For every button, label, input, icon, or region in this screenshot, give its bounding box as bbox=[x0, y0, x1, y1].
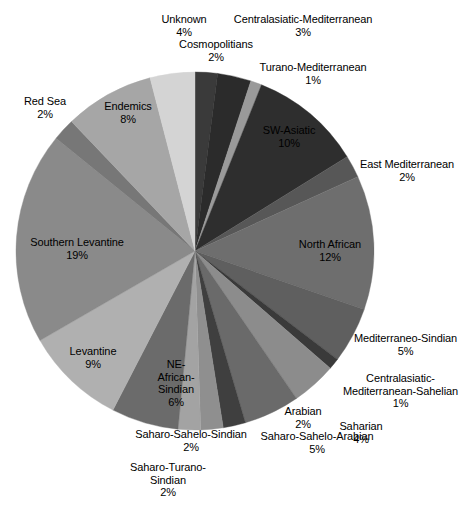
pie-label-saharo-turano-sindian: Saharo-Turano- Sindian2% bbox=[119, 461, 217, 499]
pie-label-name: Centralasiatic- Mediterranean-Sahelian bbox=[331, 372, 470, 397]
pie-label-north-african: North African12% bbox=[284, 238, 376, 263]
pie-label-name: East Mediterranean bbox=[344, 158, 470, 171]
pie-label-value: 2% bbox=[120, 441, 262, 454]
pie-label-name: Mediterraneo-Sindian bbox=[341, 332, 470, 345]
pie-label-mediterraneo-sindian: Mediterraneo-Sindian5% bbox=[341, 332, 470, 357]
pie-label-centralasiatic-mediterranean-sahelian: Centralasiatic- Mediterranean-Sahelian1% bbox=[331, 372, 470, 410]
pie-label-value: 2% bbox=[119, 486, 217, 499]
pie-label-value: 2% bbox=[14, 108, 76, 121]
pie-label-saharo-sahelo-arabian: Saharo-Sahelo-Arabian5% bbox=[244, 430, 390, 455]
pie-label-endemics: Endemics8% bbox=[92, 100, 164, 125]
pie-label-value: 1% bbox=[241, 74, 385, 87]
pie-label-name: Endemics bbox=[92, 100, 164, 113]
pie-label-name: Levantine bbox=[57, 345, 129, 358]
pie-label-name: Arabian bbox=[272, 405, 334, 418]
pie-label-name: Centralasiatic-Mediterranean bbox=[210, 13, 396, 26]
pie-label-turano-mediterranean: Turano-Mediterranean1% bbox=[241, 61, 385, 86]
pie-label-name: Saharo-Turano- Sindian bbox=[119, 461, 217, 486]
pie-label-levantine: Levantine9% bbox=[57, 345, 129, 370]
pie-label-name: North African bbox=[284, 238, 376, 251]
pie-label-arabian: Arabian2% bbox=[272, 405, 334, 430]
pie-label-value: 8% bbox=[92, 113, 164, 126]
pie-label-value: 1% bbox=[331, 397, 470, 410]
pie-label-name: Saharo-Sahelo-Arabian bbox=[244, 430, 390, 443]
pie-label-value: 6% bbox=[145, 396, 207, 409]
pie-label-value: 2% bbox=[272, 418, 334, 431]
pie-label-name: Southern Levantine bbox=[14, 236, 140, 249]
pie-label-southern-levantine: Southern Levantine19% bbox=[14, 236, 140, 261]
pie-label-value: 12% bbox=[284, 251, 376, 264]
pie-label-name: SW-Asiatic bbox=[253, 124, 325, 137]
pie-label-ne-african-sindian: NE- African- Sindian6% bbox=[145, 358, 207, 408]
pie-label-name: Turano-Mediterranean bbox=[241, 61, 385, 74]
pie-label-value: 2% bbox=[344, 171, 470, 184]
pie-label-name: Red Sea bbox=[14, 95, 76, 108]
pie-chart: Unknown4%Centralasiatic-Mediterranean3%C… bbox=[0, 0, 470, 518]
pie-label-name: Saharo-Sahelo-Sindian bbox=[120, 428, 262, 441]
pie-label-name: Cosmopolitians bbox=[165, 38, 267, 51]
pie-label-value: 19% bbox=[14, 249, 140, 262]
pie-label-saharo-sahelo-sindian: Saharo-Sahelo-Sindian2% bbox=[120, 428, 262, 453]
pie-label-red-sea: Red Sea2% bbox=[14, 95, 76, 120]
pie-label-value: 9% bbox=[57, 358, 129, 371]
pie-label-cosmopolitians: Cosmopolitians2% bbox=[165, 38, 267, 63]
pie-label-east-mediterranean: East Mediterranean2% bbox=[344, 158, 470, 183]
pie-label-value: 10% bbox=[253, 137, 325, 150]
pie-label-name: NE- African- Sindian bbox=[145, 358, 207, 396]
pie-label-value: 3% bbox=[210, 26, 396, 39]
pie-label-value: 5% bbox=[341, 345, 470, 358]
pie-label-centralasiatic-mediterranean: Centralasiatic-Mediterranean3% bbox=[210, 13, 396, 38]
pie-label-value: 5% bbox=[244, 443, 390, 456]
pie-label-sw-asiatic: SW-Asiatic10% bbox=[253, 124, 325, 149]
